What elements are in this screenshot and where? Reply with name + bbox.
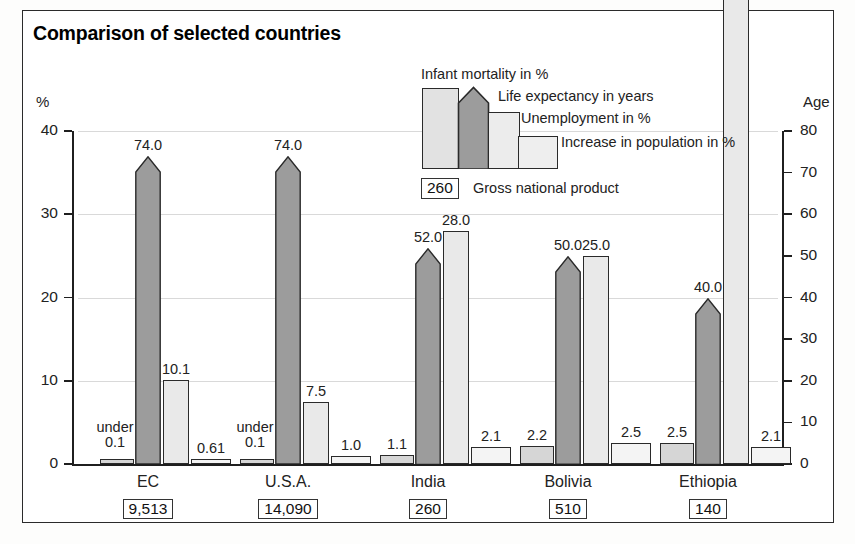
axis-tick xyxy=(64,297,72,299)
baseline xyxy=(72,464,784,466)
bar-unemployment-in xyxy=(723,0,749,464)
gnp-box: 510 xyxy=(498,500,638,518)
category-label: Bolivia xyxy=(498,473,638,491)
axis-tick xyxy=(64,380,72,382)
bar-group: under0.174.010.10.61 xyxy=(78,131,218,464)
legend-label-population: Increase in population in % xyxy=(561,134,735,150)
gnp-value: 9,513 xyxy=(123,499,174,519)
category-label: U.S.A. xyxy=(218,473,358,491)
bar-value-label: 74.0 xyxy=(118,137,178,153)
bar-group: under0.174.07.51.0 xyxy=(218,131,358,464)
bar-infant-mortality-in xyxy=(660,443,694,464)
gnp-value: 260 xyxy=(409,499,447,519)
bar-increase-in-population-in xyxy=(751,447,791,464)
gnp-box: 260 xyxy=(358,500,498,518)
left-tick-label: 10 xyxy=(24,371,58,389)
gnp-value: 14,090 xyxy=(258,499,317,519)
legend-label-infant: Infant mortality in % xyxy=(421,66,548,82)
axis-tick xyxy=(784,380,792,382)
legend-swatch-infant xyxy=(422,88,459,169)
legend-label-life: Life expectancy in years xyxy=(498,88,654,104)
axis-tick xyxy=(784,297,792,299)
right-tick-label: 40 xyxy=(800,288,834,306)
left-tick-label: 30 xyxy=(24,204,58,222)
bar-life-expectancy xyxy=(555,256,581,464)
right-tick-label: 70 xyxy=(800,163,834,181)
gnp-box: 14,090 xyxy=(218,500,358,518)
bar-infant-mortality-in xyxy=(520,446,554,464)
gnp-value: 140 xyxy=(689,499,727,519)
right-tick-label: 80 xyxy=(800,121,834,139)
bar-value-label: 2.1 xyxy=(741,428,801,444)
bar-life-expectancy xyxy=(275,156,301,464)
left-tick-label: 0 xyxy=(24,454,58,472)
bar-infant-mortality-in xyxy=(240,459,274,464)
legend-label-unemployment: Unemployment in % xyxy=(521,110,651,126)
right-tick-label: 50 xyxy=(800,246,834,264)
axis-tick xyxy=(784,130,792,132)
page-title: Comparison of selected countries xyxy=(33,22,341,45)
bar-infant-mortality-in xyxy=(380,455,414,464)
left-axis-label: % xyxy=(36,93,49,110)
bar-value-label: 7.5 xyxy=(286,383,346,399)
right-tick-label: 0 xyxy=(800,454,834,472)
legend-gnp-label: Gross national product xyxy=(473,180,619,196)
bar-group: 2.540.080.02.1 xyxy=(638,131,778,464)
right-axis-label: Age xyxy=(803,93,830,110)
axis-tick xyxy=(64,130,72,132)
right-tick-label: 30 xyxy=(800,329,834,347)
bar-unemployment-in xyxy=(303,402,329,464)
axis-tick xyxy=(64,213,72,215)
gnp-box: 140 xyxy=(638,500,778,518)
axis-tick xyxy=(64,463,72,465)
chart-page: Comparison of selected countries % Age u… xyxy=(0,0,855,544)
right-tick-label: 20 xyxy=(800,371,834,389)
bar-life-expectancy xyxy=(695,298,721,465)
gnp-box: 9,513 xyxy=(78,500,218,518)
legend-gnp-box: 260 xyxy=(421,178,459,199)
bar-infant-mortality-in xyxy=(100,459,134,464)
axis-tick xyxy=(784,338,792,340)
gnp-value: 510 xyxy=(549,499,587,519)
category-label: India xyxy=(358,473,498,491)
left-axis-line xyxy=(72,131,74,465)
axis-tick xyxy=(784,213,792,215)
left-tick-label: 20 xyxy=(24,288,58,306)
bar-value-label: 25.0 xyxy=(566,237,626,253)
axis-tick xyxy=(784,172,792,174)
right-tick-label: 60 xyxy=(800,204,834,222)
right-tick-label: 10 xyxy=(800,412,834,430)
bar-life-expectancy xyxy=(135,156,161,464)
legend-swatch-unemployment xyxy=(488,112,520,169)
axis-tick xyxy=(784,422,792,424)
bar-value-label: 74.0 xyxy=(258,137,318,153)
bar-value-label: 28.0 xyxy=(426,212,486,228)
bar-life-expectancy xyxy=(415,248,441,464)
bar-value-label: 10.1 xyxy=(146,361,206,377)
axis-tick xyxy=(784,255,792,257)
category-label: Ethiopia xyxy=(638,473,778,491)
category-label: EC xyxy=(78,473,218,491)
legend-swatch-population xyxy=(518,136,558,169)
legend-swatch-life xyxy=(457,86,490,173)
left-tick-label: 40 xyxy=(24,121,58,139)
